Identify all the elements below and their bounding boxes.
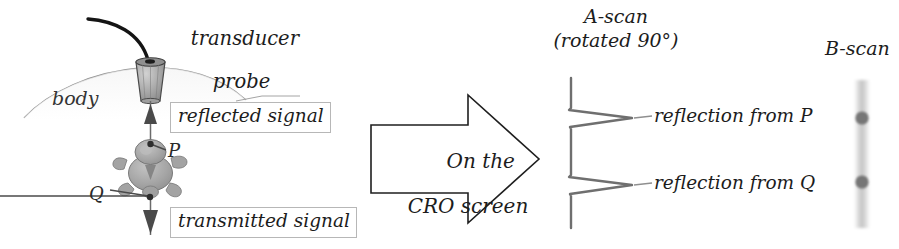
reflection-p-leader — [634, 116, 652, 118]
transition-arrow-label-line2: CRO screen — [398, 195, 538, 217]
b-scan-echo-dot-p — [855, 111, 868, 124]
figure-canvas: transducer probe body P Q reflected sign… — [0, 0, 899, 249]
probe-cable — [88, 19, 148, 60]
transition-arrow-label-line1: On the — [447, 149, 515, 173]
transition-arrow-label: On the CRO screen — [398, 128, 538, 249]
reflected-signal-caption: reflected signal — [170, 102, 331, 133]
transmitted-signal-caption: transmitted signal — [170, 207, 357, 238]
transmitted-signal-arrowhead — [143, 210, 158, 234]
transducer-probe-label-line1: transducer — [191, 27, 299, 50]
reflection-from-q-label: reflection from Q — [654, 173, 815, 194]
a-scan-subtitle: (rotated 90°) — [528, 30, 704, 51]
reflection-q-leader — [634, 183, 652, 185]
point-p-marker — [147, 141, 153, 147]
b-scan-echo-dot-q — [855, 175, 868, 188]
b-scan-display — [854, 80, 870, 228]
transducer-probe-label: transducer probe — [166, 6, 299, 115]
body-label: body — [52, 88, 99, 109]
b-scan-title: B-scan — [825, 38, 890, 59]
b-scan-beam-line — [854, 80, 870, 228]
probe-cable-socket — [145, 59, 155, 63]
point-q-label: Q — [89, 184, 104, 204]
reflection-from-p-label: reflection from P — [654, 106, 812, 127]
point-q-marker — [147, 194, 153, 200]
transducer-probe-label-line2: probe — [213, 71, 271, 93]
a-scan-trace — [569, 78, 632, 228]
point-p-label: P — [168, 141, 180, 161]
a-scan-title: A-scan — [556, 6, 676, 27]
